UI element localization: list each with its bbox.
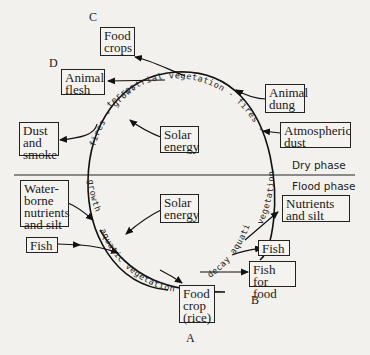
box-fish-in: Fish <box>26 237 58 253</box>
box-animal-flesh: Animal flesh <box>61 69 105 95</box>
dry-phase-label: Dry phase <box>292 159 346 171</box>
box-atmospheric-dust: Atmospheric dust <box>280 122 351 148</box>
box-solar-energy-flood: Solar energy <box>160 194 199 223</box>
nutrient-cycle-diagram: terrestrial vegetation - fires - vegetat… <box>0 0 370 355</box>
label-d: D <box>49 56 58 71</box>
label-c: C <box>89 10 97 25</box>
box-waterborne-nutrients: Water- borne nutrients and silt <box>20 180 69 227</box>
box-fish-out: Fish <box>258 240 290 256</box>
box-solar-energy-dry: Solar energy <box>160 126 199 153</box>
box-fish-for-food: Fish for food <box>249 261 296 287</box>
box-nutrients-and-silt: Nutrients and silt <box>282 195 350 222</box>
cycle-text-right: vegetation <box>255 170 276 225</box>
box-food-crops: Food crops <box>100 27 135 56</box>
label-a: A <box>186 331 195 346</box>
cycle-text-bottom: aquatic vegetation - <box>98 227 186 295</box>
flood-phase-label: Flood phase <box>292 180 356 192</box>
box-dust-and-smoke: Dust and smoke <box>19 122 59 156</box>
cycle-text-top: terrestrial vegetation - fires - <box>104 70 267 134</box>
box-animal-dung: Animal dung <box>265 84 305 113</box>
box-food-crop-rice: Food crop (rice) <box>179 285 215 323</box>
